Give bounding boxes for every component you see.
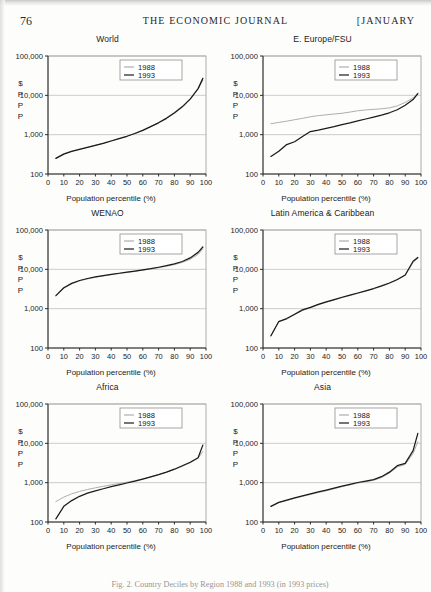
svg-text:20: 20 (290, 526, 298, 535)
svg-text:100,000: 100,000 (16, 52, 43, 61)
svg-text:10,000: 10,000 (20, 265, 43, 274)
x-axis-label: Population percentile (%) (22, 368, 200, 377)
svg-text:20: 20 (290, 178, 298, 187)
svg-text:1993: 1993 (353, 245, 370, 254)
svg-text:1993: 1993 (353, 419, 370, 428)
svg-text:70: 70 (154, 352, 162, 361)
svg-text:100: 100 (30, 518, 43, 527)
svg-text:1993: 1993 (353, 71, 370, 80)
svg-text:50: 50 (338, 178, 346, 187)
x-axis-label: Population percentile (%) (237, 542, 415, 551)
figure-caption: Fig. 2. Country Deciles by Region 1988 a… (44, 580, 396, 592)
chart-title: Asia (215, 382, 430, 392)
svg-text:20: 20 (75, 178, 83, 187)
svg-text:70: 70 (154, 526, 162, 535)
svg-text:0: 0 (46, 526, 50, 535)
svg-text:60: 60 (354, 352, 362, 361)
svg-text:30: 30 (91, 352, 99, 361)
svg-text:40: 40 (322, 352, 330, 361)
issue-month: [JANUARY (357, 15, 415, 26)
plot-area: 100,00010,0001,0001000102030405060708090… (215, 44, 430, 198)
svg-text:0: 0 (46, 352, 50, 361)
svg-text:90: 90 (186, 178, 194, 187)
svg-text:1,000: 1,000 (24, 478, 43, 487)
svg-text:30: 30 (91, 178, 99, 187)
svg-text:100,000: 100,000 (231, 226, 258, 235)
svg-text:10: 10 (60, 352, 68, 361)
chart-panel-world: World $ P P P 100,00010,0001,00010001020… (0, 34, 215, 208)
x-axis-label: Population percentile (%) (237, 194, 415, 203)
svg-text:90: 90 (401, 526, 409, 535)
svg-text:100: 100 (415, 526, 427, 535)
svg-text:0: 0 (261, 352, 265, 361)
chart-title: World (0, 34, 215, 44)
svg-text:50: 50 (123, 178, 131, 187)
running-head: 76 THE ECONOMIC JOURNAL [JANUARY (0, 14, 431, 30)
plot-area: 100,00010,0001,0001000102030405060708090… (0, 392, 215, 546)
svg-text:100: 100 (245, 170, 258, 179)
svg-text:10,000: 10,000 (20, 439, 43, 448)
panel-row-2: WENAO $ P P P 100,00010,0001,00010001020… (0, 208, 431, 382)
svg-text:100: 100 (200, 178, 212, 187)
svg-text:1,000: 1,000 (239, 478, 258, 487)
svg-text:30: 30 (306, 526, 314, 535)
svg-text:60: 60 (139, 352, 147, 361)
svg-text:90: 90 (401, 352, 409, 361)
svg-text:1993: 1993 (138, 419, 155, 428)
x-axis-label: Population percentile (%) (237, 368, 415, 377)
svg-text:100: 100 (245, 344, 258, 353)
svg-text:90: 90 (401, 178, 409, 187)
svg-text:1993: 1993 (138, 71, 155, 80)
chart-panel-asia: Asia $ P P P 100,00010,0001,000100010203… (215, 382, 431, 556)
svg-text:50: 50 (338, 526, 346, 535)
svg-text:10,000: 10,000 (235, 265, 258, 274)
svg-text:1,000: 1,000 (239, 130, 258, 139)
svg-text:20: 20 (75, 526, 83, 535)
svg-text:10: 10 (60, 526, 68, 535)
svg-text:0: 0 (261, 178, 265, 187)
figure-panel-grid: World $ P P P 100,00010,0001,00010001020… (0, 34, 431, 556)
svg-text:10,000: 10,000 (20, 91, 43, 100)
svg-text:50: 50 (123, 352, 131, 361)
svg-text:90: 90 (186, 352, 194, 361)
svg-text:80: 80 (170, 352, 178, 361)
svg-text:70: 70 (369, 178, 377, 187)
svg-text:40: 40 (107, 526, 115, 535)
svg-text:0: 0 (46, 178, 50, 187)
svg-text:40: 40 (322, 178, 330, 187)
svg-text:100,000: 100,000 (231, 52, 258, 61)
svg-text:1993: 1993 (138, 245, 155, 254)
svg-text:40: 40 (322, 526, 330, 535)
svg-text:70: 70 (154, 178, 162, 187)
svg-text:10: 10 (60, 178, 68, 187)
svg-text:100,000: 100,000 (16, 400, 43, 409)
svg-text:10,000: 10,000 (235, 91, 258, 100)
svg-text:60: 60 (354, 178, 362, 187)
chart-panel-wenao: WENAO $ P P P 100,00010,0001,00010001020… (0, 208, 215, 382)
svg-text:1,000: 1,000 (24, 304, 43, 313)
svg-text:100: 100 (30, 170, 43, 179)
svg-text:40: 40 (107, 352, 115, 361)
svg-text:20: 20 (290, 352, 298, 361)
svg-text:60: 60 (139, 526, 147, 535)
svg-text:80: 80 (170, 178, 178, 187)
plot-area: 100,00010,0001,0001000102030405060708090… (0, 218, 215, 372)
svg-text:30: 30 (91, 526, 99, 535)
svg-text:100: 100 (30, 344, 43, 353)
svg-text:1,000: 1,000 (24, 130, 43, 139)
svg-text:80: 80 (385, 352, 393, 361)
svg-text:20: 20 (75, 352, 83, 361)
chart-title: Africa (0, 382, 215, 392)
chart-title: WENAO (0, 208, 215, 218)
svg-text:100,000: 100,000 (231, 400, 258, 409)
svg-text:50: 50 (123, 526, 131, 535)
svg-text:30: 30 (306, 352, 314, 361)
panel-row-1: World $ P P P 100,00010,0001,00010001020… (0, 34, 431, 208)
svg-text:40: 40 (107, 178, 115, 187)
svg-text:10: 10 (275, 352, 283, 361)
svg-text:60: 60 (354, 526, 362, 535)
chart-panel-africa: Africa $ P P P 100,00010,0001,0001000102… (0, 382, 215, 556)
svg-text:100: 100 (245, 518, 258, 527)
plot-area: 100,00010,0001,0001000102030405060708090… (215, 218, 430, 372)
svg-text:10: 10 (275, 526, 283, 535)
